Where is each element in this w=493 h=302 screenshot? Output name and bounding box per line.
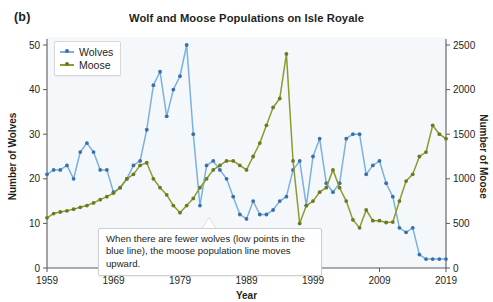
x-tick-label: 2019 xyxy=(435,275,458,286)
series-point-moose xyxy=(364,208,368,212)
series-point-wolves xyxy=(437,257,441,261)
x-tick-label: 1989 xyxy=(235,275,258,286)
series-point-wolves xyxy=(72,177,76,181)
series-point-moose xyxy=(304,204,308,208)
series-point-moose xyxy=(245,168,249,172)
series-point-moose xyxy=(225,159,229,163)
series-point-moose xyxy=(72,207,76,211)
series-point-moose xyxy=(424,150,428,154)
y-tick-label-left: 50 xyxy=(29,40,41,51)
series-point-moose xyxy=(125,177,129,181)
series-point-wolves xyxy=(424,257,428,261)
series-point-wolves xyxy=(105,168,109,172)
series-point-wolves xyxy=(298,159,302,163)
series-point-wolves xyxy=(258,213,262,217)
series-point-moose xyxy=(311,199,315,203)
series-point-wolves xyxy=(364,172,368,176)
series-point-moose xyxy=(238,164,242,168)
series-point-moose xyxy=(324,186,328,190)
series-point-moose xyxy=(384,221,388,225)
legend-item-moose: Moose xyxy=(60,59,113,71)
series-point-moose xyxy=(291,159,295,163)
series-point-moose xyxy=(165,193,169,197)
x-tick-label: 1999 xyxy=(302,275,325,286)
series-point-moose xyxy=(65,209,69,213)
series-point-wolves xyxy=(358,132,362,136)
x-axis-title: Year xyxy=(236,290,257,301)
series-point-moose xyxy=(331,168,335,172)
series-point-moose xyxy=(271,106,275,110)
series-point-moose xyxy=(205,177,209,181)
series-point-moose xyxy=(251,155,255,159)
series-point-moose xyxy=(338,186,342,190)
series-point-wolves xyxy=(45,172,49,176)
series-point-moose xyxy=(398,199,402,203)
y-tick-label-left: 40 xyxy=(29,84,41,95)
series-point-wolves xyxy=(92,150,96,154)
series-point-wolves xyxy=(65,164,69,168)
y-tick-label-left: 30 xyxy=(29,129,41,140)
series-point-wolves xyxy=(384,181,388,185)
series-point-wolves xyxy=(171,88,175,92)
series-point-wolves xyxy=(191,132,195,136)
series-point-moose xyxy=(191,197,195,201)
y-tick-label-left: 0 xyxy=(34,263,40,274)
y-tick-label-right: 1000 xyxy=(453,173,476,184)
callout-text: When there are fewer wolves (low points … xyxy=(106,233,314,270)
legend-swatch-moose xyxy=(60,64,74,66)
series-point-moose xyxy=(285,52,289,56)
series-point-wolves xyxy=(398,226,402,230)
y-tick-label-left: 10 xyxy=(29,218,41,229)
series-point-moose xyxy=(45,216,49,220)
chart-legend: Wolves Moose xyxy=(54,41,121,76)
series-point-wolves xyxy=(271,208,275,212)
series-point-wolves xyxy=(152,83,156,87)
series-point-moose xyxy=(145,161,149,165)
series-point-wolves xyxy=(265,213,269,217)
series-point-moose xyxy=(178,211,182,215)
series-point-wolves xyxy=(145,128,149,132)
y-tick-label-right: 1500 xyxy=(453,129,476,140)
series-point-moose xyxy=(92,201,96,205)
series-point-moose xyxy=(278,97,282,101)
y-tick-label-right: 0 xyxy=(453,263,459,274)
legend-swatch-wolves xyxy=(60,51,74,53)
series-point-moose xyxy=(171,204,175,208)
series-point-wolves xyxy=(178,74,182,78)
series-point-moose xyxy=(378,219,382,223)
series-point-wolves xyxy=(391,195,395,199)
series-point-wolves xyxy=(404,230,408,234)
x-tick-label: 1979 xyxy=(169,275,192,286)
y-axis-title-left: Number of Wolves xyxy=(7,112,18,200)
series-point-wolves xyxy=(238,213,242,217)
series-point-moose xyxy=(78,205,82,209)
series-point-moose xyxy=(198,186,202,190)
series-point-moose xyxy=(411,172,415,176)
x-tick-label: 1969 xyxy=(102,275,125,286)
series-point-wolves xyxy=(245,217,249,221)
legend-label-wolves: Wolves xyxy=(79,46,113,58)
series-point-wolves xyxy=(78,150,82,154)
series-point-moose xyxy=(404,179,408,183)
series-point-wolves xyxy=(165,114,169,118)
series-point-moose xyxy=(437,132,441,136)
series-point-moose xyxy=(218,164,222,168)
series-point-wolves xyxy=(85,141,89,145)
series-point-wolves xyxy=(344,137,348,141)
series-point-moose xyxy=(418,155,422,159)
series-point-wolves xyxy=(418,253,422,257)
chart-annotation-callout: When there are fewer wolves (low points … xyxy=(98,228,322,276)
legend-label-moose: Moose xyxy=(79,59,111,71)
series-point-moose xyxy=(85,204,89,208)
series-point-wolves xyxy=(318,137,322,141)
y-tick-label-right: 2000 xyxy=(453,84,476,95)
series-point-wolves xyxy=(231,195,235,199)
series-point-moose xyxy=(351,218,355,222)
series-point-moose xyxy=(112,191,116,195)
series-point-moose xyxy=(371,219,375,223)
series-point-moose xyxy=(231,159,235,163)
series-point-moose xyxy=(358,226,362,230)
series-point-moose xyxy=(185,204,189,208)
series-point-wolves xyxy=(158,70,162,74)
series-point-wolves xyxy=(132,164,136,168)
